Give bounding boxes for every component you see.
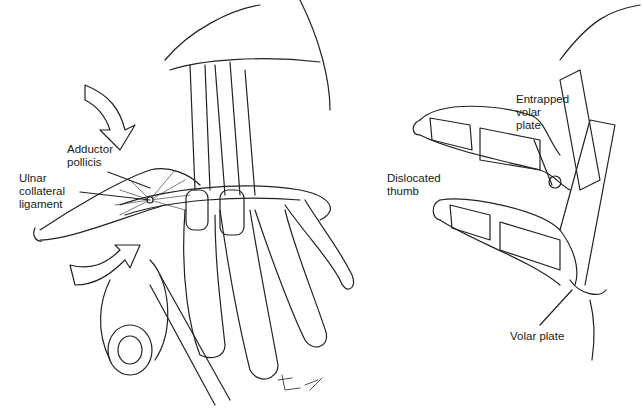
hand-drawing bbox=[34, 0, 354, 405]
label-adductor-pollicis: Adductor pollicis bbox=[67, 143, 113, 169]
label-volar-plate: Volar plate bbox=[510, 330, 564, 343]
label-dislocated-thumb: Dislocated thumb bbox=[387, 172, 441, 198]
signature-mark bbox=[278, 375, 322, 390]
illustration bbox=[0, 0, 643, 415]
leader-volar bbox=[540, 290, 572, 325]
leader-entrapped bbox=[534, 140, 552, 185]
label-ulnar-collateral-ligament: Ulnar collateral ligament bbox=[19, 172, 65, 211]
label-entrapped-volar-plate: Entrapped volar plate bbox=[516, 93, 569, 132]
normal-thumb-drawing bbox=[433, 120, 615, 360]
